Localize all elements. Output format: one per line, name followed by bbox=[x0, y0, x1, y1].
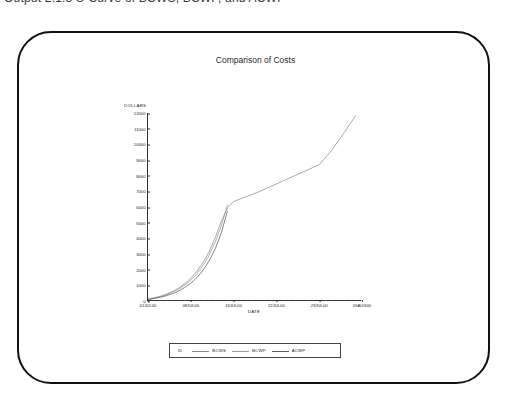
x-axis-minor-tick bbox=[338, 300, 339, 301]
y-axis-tick: 12000 bbox=[134, 111, 148, 116]
series-line-bcws bbox=[148, 115, 356, 299]
y-axis-label: DOLLARS bbox=[124, 103, 146, 108]
legend-swatch-icon bbox=[192, 349, 209, 352]
plot-area: 0100020003000400050006000700080009000100… bbox=[147, 113, 361, 301]
x-axis-minor-tick bbox=[240, 300, 241, 301]
x-axis-minor-tick bbox=[166, 300, 167, 301]
legend-label: BCWS bbox=[212, 348, 226, 353]
y-axis-tick: 9000 bbox=[136, 158, 148, 163]
x-axis-minor-tick bbox=[221, 300, 222, 301]
legend-entry-acwp: ACWP bbox=[272, 348, 306, 353]
x-axis-tick: 01JUL00 bbox=[140, 303, 157, 308]
x-axis-tick: 22JUL00 bbox=[268, 303, 285, 308]
y-axis-tick: 4000 bbox=[136, 236, 148, 241]
x-axis-minor-tick bbox=[344, 300, 345, 301]
legend-id-label: ID bbox=[178, 348, 182, 353]
x-axis-minor-tick bbox=[301, 300, 302, 301]
x-axis-minor-tick bbox=[227, 300, 228, 301]
caption-text: Output 2.1.3 S-Curve of BCWS, BCWP, and … bbox=[4, 0, 285, 5]
y-axis-tick: 11000 bbox=[134, 126, 148, 131]
chart-title: Comparison of Costs bbox=[19, 55, 492, 65]
x-axis-minor-tick bbox=[264, 300, 265, 301]
x-axis-minor-tick bbox=[295, 300, 296, 301]
x-axis-minor-tick bbox=[270, 300, 271, 301]
legend-swatch-icon bbox=[232, 349, 249, 352]
series-lines bbox=[148, 113, 362, 301]
rounded-display-frame: Comparison of Costs DOLLARS 010002000300… bbox=[17, 31, 490, 384]
legend-swatch-icon bbox=[272, 349, 289, 352]
y-axis-tick: 5000 bbox=[136, 220, 148, 225]
y-axis-tick: 10000 bbox=[134, 142, 148, 147]
x-axis-minor-tick bbox=[307, 300, 308, 301]
legend-entry-bcws: BCWS bbox=[192, 348, 226, 353]
x-axis-tick: 29JUL00 bbox=[311, 303, 328, 308]
x-axis-minor-tick bbox=[289, 300, 290, 301]
legend-label: ACWP bbox=[292, 348, 306, 353]
x-axis-minor-tick bbox=[197, 300, 198, 301]
x-axis-minor-tick bbox=[313, 300, 314, 301]
legend-entry-bcwp: BCWP bbox=[232, 348, 266, 353]
x-axis-tick: 05AUG00 bbox=[353, 303, 371, 308]
chart-canvas: Comparison of Costs DOLLARS 010002000300… bbox=[19, 33, 492, 386]
y-axis-tick: 3000 bbox=[136, 252, 148, 257]
legend-label: BCWP bbox=[252, 348, 266, 353]
x-axis-minor-tick bbox=[350, 300, 351, 301]
x-axis-minor-tick bbox=[185, 300, 186, 301]
x-axis-tick: 15JUL00 bbox=[225, 303, 242, 308]
x-axis-minor-tick bbox=[160, 300, 161, 301]
x-axis-minor-tick bbox=[179, 300, 180, 301]
x-axis-minor-tick bbox=[154, 300, 155, 301]
x-axis-minor-tick bbox=[209, 300, 210, 301]
y-axis-tick: 1000 bbox=[136, 283, 148, 288]
x-axis-minor-tick bbox=[246, 300, 247, 301]
caption-strip: Output 2.1.3 S-Curve of BCWS, BCWP, and … bbox=[0, 0, 505, 10]
x-axis-minor-tick bbox=[203, 300, 204, 301]
x-axis-minor-tick bbox=[258, 300, 259, 301]
series-line-acwp bbox=[148, 211, 227, 300]
y-axis-tick: 7000 bbox=[136, 189, 148, 194]
x-axis-label: DATE bbox=[147, 309, 361, 314]
x-axis-minor-tick bbox=[215, 300, 216, 301]
x-axis-minor-tick bbox=[325, 300, 326, 301]
plot-wrapper: DOLLARS 01000200030004000500060007000800… bbox=[125, 113, 361, 309]
y-axis-tick: 2000 bbox=[136, 267, 148, 272]
x-axis-tick: 08JUL00 bbox=[182, 303, 199, 308]
chart-legend: ID BCWSBCWPACWP bbox=[169, 343, 341, 358]
y-axis-tick: 6000 bbox=[136, 205, 148, 210]
x-axis-minor-tick bbox=[283, 300, 284, 301]
x-axis-minor-tick bbox=[172, 300, 173, 301]
x-axis-minor-tick bbox=[356, 300, 357, 301]
x-axis-minor-tick bbox=[331, 300, 332, 301]
y-axis-tick: 8000 bbox=[136, 173, 148, 178]
x-axis-minor-tick bbox=[252, 300, 253, 301]
